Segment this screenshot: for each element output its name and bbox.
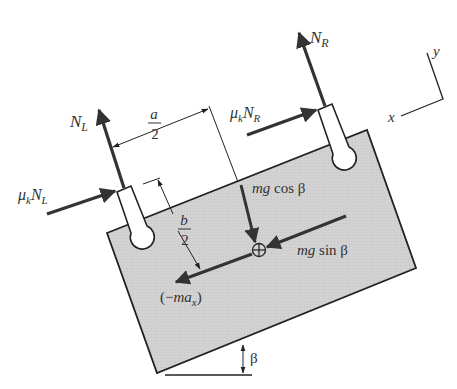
angle-beta-label: β: [250, 350, 258, 366]
half-b-denominator: 2: [181, 232, 189, 248]
weight-normal-component-label: mg cos β: [252, 180, 305, 196]
friction-force-right-label: μkNR: [229, 104, 261, 124]
axis-x-label: x: [387, 109, 395, 125]
half-a-denominator: 2: [151, 126, 159, 142]
normal-force-left-arrow: [99, 110, 124, 188]
free-body-diagram: β NL NR μkNL μkNR a 2 b 2: [0, 0, 457, 389]
normal-force-right-label: NR: [309, 28, 329, 50]
normal-force-left-label: NL: [69, 112, 88, 134]
coordinate-axes: x y: [387, 43, 443, 125]
half-a-numerator: a: [150, 106, 158, 122]
half-b-numerator: b: [180, 212, 188, 228]
weight-tangent-component-label: mg sin β: [297, 242, 348, 258]
friction-force-left-label: μkNL: [17, 186, 48, 206]
angle-beta-indicator: β: [243, 345, 258, 373]
center-of-gravity-symbol: [253, 244, 266, 257]
dimension-half-a: a 2: [113, 106, 238, 182]
friction-force-left-arrow: [47, 191, 115, 214]
axis-y-label: y: [431, 43, 440, 59]
